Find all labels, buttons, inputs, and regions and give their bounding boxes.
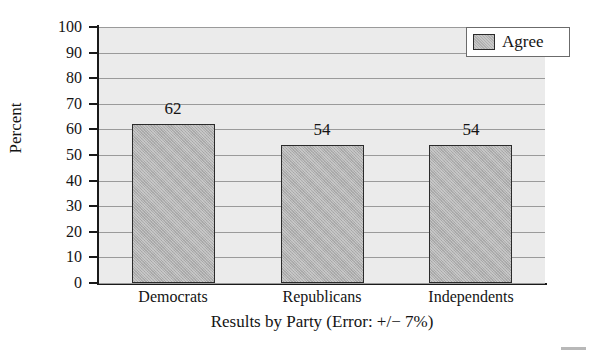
y-tick-mark <box>89 26 98 28</box>
bar-value-label: 54 <box>431 120 511 140</box>
category-label-republicans: Republicans <box>242 288 402 306</box>
y-tick-label: 0 <box>40 274 82 292</box>
y-tick-mark <box>89 205 98 207</box>
y-tick-mark <box>89 128 98 130</box>
category-label-democrats: Democrats <box>93 288 253 306</box>
y-tick-label: 90 <box>40 44 82 62</box>
y-tick-mark <box>89 154 98 156</box>
x-axis-title: Results by Party (Error: +/− 7%) <box>99 312 545 332</box>
y-tick-mark <box>89 256 98 258</box>
y-tick-mark <box>89 103 98 105</box>
y-tick-mark <box>89 52 98 54</box>
bar-value-label: 62 <box>133 99 213 119</box>
legend: Agree <box>466 27 570 57</box>
y-tick-label: 30 <box>40 197 82 215</box>
y-tick-label: 40 <box>40 172 82 190</box>
y-tick-mark <box>89 282 98 284</box>
category-label-independents: Independents <box>391 288 551 306</box>
y-tick-label: 60 <box>40 120 82 138</box>
y-tick-label: 10 <box>40 248 82 266</box>
legend-label-agree: Agree <box>502 32 544 52</box>
y-tick-mark <box>89 180 98 182</box>
y-tick-label: 70 <box>40 95 82 113</box>
y-tick-label: 80 <box>40 69 82 87</box>
y-tick-label: 20 <box>40 223 82 241</box>
y-tick-label: 50 <box>40 146 82 164</box>
bar-chart: Percent 0102030405060708090100 625454 De… <box>0 0 595 355</box>
y-tick-mark <box>89 231 98 233</box>
y-tick-label: 100 <box>40 18 82 36</box>
legend-swatch-agree <box>473 34 495 50</box>
scan-artifact <box>561 347 586 350</box>
y-tick-mark <box>89 77 98 79</box>
bar-value-label: 54 <box>282 120 362 140</box>
